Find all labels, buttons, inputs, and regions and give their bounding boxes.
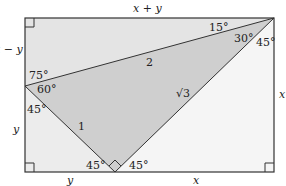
label-left-lower: y bbox=[12, 123, 20, 136]
label-bottom-left: y bbox=[66, 174, 74, 186]
label-bottom-right: x bbox=[193, 174, 200, 186]
label-left-leg: 1 bbox=[78, 120, 85, 133]
angle-75: 75° bbox=[29, 69, 49, 82]
angle-45-top-right: 45° bbox=[256, 36, 276, 49]
angle-45-bottom-right: 45° bbox=[129, 159, 149, 172]
label-hypotenuse: 2 bbox=[146, 56, 153, 69]
angle-30: 30° bbox=[234, 32, 254, 45]
angle-45-left: 45° bbox=[27, 103, 47, 116]
label-left-upper: x − y bbox=[0, 43, 23, 56]
label-right: x bbox=[279, 88, 286, 101]
angle-45-bottom-left: 45° bbox=[86, 159, 106, 172]
angle-15: 15° bbox=[209, 21, 229, 34]
label-right-leg: √3 bbox=[176, 87, 190, 100]
trig-diagram: x + y x − y y y x x 2 1 √3 15° 30° 45° 7… bbox=[0, 0, 286, 186]
label-top: x + y bbox=[133, 2, 162, 15]
angle-60: 60° bbox=[37, 83, 57, 96]
